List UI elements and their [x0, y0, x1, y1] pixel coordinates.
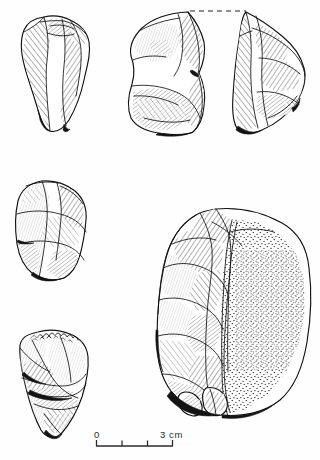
scale-start-label: 0 [94, 429, 100, 440]
artifact-top-centre-fragment [128, 12, 205, 136]
artifact-large-core [156, 205, 314, 420]
plate-canvas: 0 3 cm [0, 0, 320, 460]
artifact-middle-left-flake [16, 181, 87, 281]
illustration-plate: 0 3 cm [0, 0, 320, 460]
scale-end-label: 3 cm [160, 429, 183, 440]
